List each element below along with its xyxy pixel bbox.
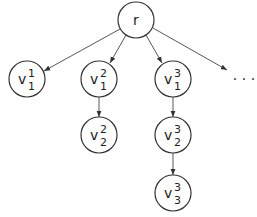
node-circle: [155, 61, 191, 97]
node-circle: [81, 117, 117, 153]
node-circle: [155, 117, 191, 153]
node-superscript: 1: [28, 67, 35, 80]
node-superscript: 3: [174, 123, 181, 136]
node-v2-2: v 2 2: [81, 117, 117, 153]
node-subscript: 1: [100, 80, 107, 93]
node-v3-1: v 3 1: [155, 61, 191, 97]
ellipsis-text: · · ·: [233, 71, 255, 87]
node-circle: [155, 175, 191, 211]
node-subscript: 3: [174, 194, 181, 207]
node-v3-2: v 3 2: [155, 117, 191, 153]
node-r: r: [118, 2, 154, 38]
node-v1-1: v 1 1: [9, 61, 45, 97]
node-superscript: 2: [100, 67, 107, 80]
node-subscript: 2: [174, 136, 181, 149]
node-v3-3: v 3 3: [155, 175, 191, 211]
node-subscript: 1: [174, 80, 181, 93]
node-subscript: 1: [28, 80, 35, 93]
node-label: v: [18, 71, 26, 87]
node-superscript: 3: [174, 67, 181, 80]
edge-r-v2-1: [110, 35, 126, 63]
node-circle: [9, 61, 45, 97]
node-label: v: [90, 71, 98, 87]
node-label: v: [164, 71, 172, 87]
node-superscript: 3: [174, 181, 181, 194]
node-subscript: 2: [100, 136, 107, 149]
node-v2-1: v 2 1: [81, 61, 117, 97]
node-circle: [81, 61, 117, 97]
node-superscript: 2: [100, 123, 107, 136]
node-label: v: [164, 127, 172, 143]
edge-r-v3-1: [146, 35, 162, 63]
node-label: v: [164, 185, 172, 201]
node-label: v: [90, 127, 98, 143]
ellipsis: · · ·: [233, 71, 255, 87]
node-label: r: [133, 12, 139, 28]
tree-diagram: r v 1 1 v 2 1 v 3 1 v 2 2 v 3 2 v 3 3: [0, 0, 257, 217]
edges: [44, 28, 227, 175]
